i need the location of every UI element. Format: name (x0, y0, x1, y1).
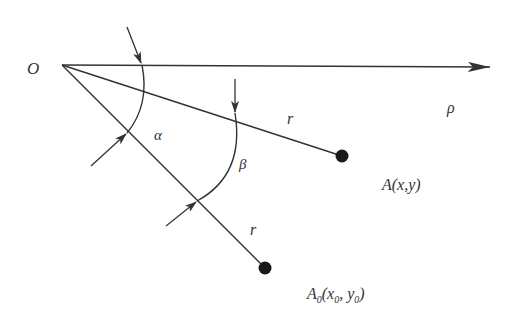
label-origin: O (27, 59, 39, 78)
arrow-alpha-end (91, 134, 126, 166)
label-A0-close: ) (358, 285, 364, 303)
diagram-canvas: O ρ α β r r A(x,y) A0(x0, y0) (0, 0, 509, 325)
arrow-beta-end (166, 202, 196, 226)
point-A0 (259, 262, 272, 275)
label-A0-open: (x (322, 285, 334, 303)
label-radius-lower: r (250, 221, 257, 238)
label-beta: β (238, 156, 247, 172)
segment-OA (62, 65, 342, 156)
arc-beta (197, 113, 237, 201)
label-radius-upper: r (287, 110, 294, 127)
arc-alpha (127, 65, 144, 133)
point-A (336, 150, 349, 163)
label-point-A: A(x,y) (381, 176, 421, 194)
label-point-A0: A0(x0, y0) (306, 285, 365, 305)
arrow-alpha-start (127, 27, 141, 63)
label-axis-rho: ρ (446, 99, 455, 117)
label-A0-main: A (306, 285, 317, 302)
label-alpha: α (154, 127, 163, 143)
label-A0-comma: , y (339, 285, 355, 303)
polar-axis (62, 65, 490, 67)
